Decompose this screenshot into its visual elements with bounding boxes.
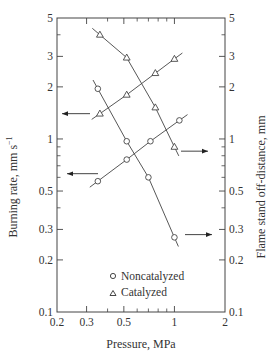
triangle-marker-icon (171, 55, 178, 61)
y-tick-label: 5 (47, 12, 53, 24)
arrowhead-icon (202, 149, 208, 154)
y-tick-label: 0.2 (39, 254, 54, 266)
circle-marker-icon (146, 175, 152, 181)
circle-marker-icon (148, 138, 154, 144)
series-line (93, 80, 178, 247)
series-line (92, 28, 179, 156)
axis-arrows (62, 111, 212, 237)
circle-marker-icon (172, 235, 178, 241)
y-tick-label: 2 (47, 81, 53, 93)
circle-marker-icon (177, 118, 183, 124)
y-tick-label-right: 3 (229, 50, 235, 62)
x-axis-label: Pressure, MPa (106, 337, 176, 351)
arrowhead-icon (206, 232, 212, 237)
y-tick-label: 3 (47, 50, 53, 62)
series-line (90, 115, 188, 188)
y-tick-label: 0.5 (39, 185, 54, 197)
circle-marker-icon (95, 178, 101, 184)
y-tick-label-right: 0.3 (229, 223, 244, 235)
x-tick-label: 0.5 (117, 316, 132, 328)
legend-noncatalyzed-label: Noncatalyzed (121, 270, 184, 283)
x-tick-label: 2 (222, 316, 228, 328)
y-axis-ticks-left: 0.10.20.30.51235 (39, 12, 63, 318)
triangle-marker-icon (152, 104, 159, 110)
y-tick-label-right: 0.1 (229, 306, 244, 318)
y-tick-label-right: 0.5 (229, 185, 244, 197)
triangle-marker-icon (123, 91, 130, 97)
legend: Noncatalyzed Catalyzed (110, 270, 184, 299)
circle-marker-icon (124, 157, 130, 163)
y-tick-label-right: 2 (229, 81, 235, 93)
series-line (92, 53, 183, 119)
circle-marker-icon (95, 86, 101, 92)
triangle-marker-icon (96, 110, 103, 116)
legend-triangle-icon (110, 291, 116, 296)
y-axis-ticks-right: 0.10.20.30.51235 (219, 12, 244, 318)
y-tick-label: 0.3 (39, 223, 54, 235)
triangle-marker-icon (171, 143, 178, 149)
triangle-marker-icon (152, 70, 159, 76)
y-tick-label-right: 5 (229, 12, 235, 24)
y-tick-label-right: 1 (229, 133, 235, 145)
legend-circle-icon (110, 273, 115, 278)
triangle-marker-icon (123, 54, 130, 60)
arrowhead-icon (62, 111, 68, 116)
chart: 0.20.30.512 0.10.20.30.51235 0.10.20.30.… (0, 0, 278, 359)
arrowhead-icon (67, 171, 73, 176)
legend-catalyzed-label: Catalyzed (121, 286, 167, 299)
y-tick-label-right: 0.2 (229, 254, 244, 266)
x-tick-label: 0.3 (79, 316, 94, 328)
data-series (90, 28, 188, 246)
x-tick-label: 1 (172, 316, 178, 328)
y-tick-label: 0.1 (39, 306, 54, 318)
y-tick-label: 1 (47, 133, 53, 145)
y-axis-label-right: Flame stand off-distance, mm (254, 115, 268, 259)
circle-marker-icon (124, 138, 130, 144)
triangle-marker-icon (96, 31, 103, 37)
y-axis-label-left: Burning rate, mm s−1 (5, 136, 20, 237)
